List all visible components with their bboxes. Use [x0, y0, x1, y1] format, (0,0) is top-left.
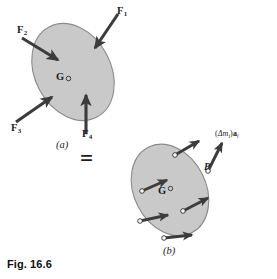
- body-b: [116, 131, 224, 249]
- figure-graphics: [0, 0, 277, 279]
- part-b-label: (b): [163, 246, 175, 257]
- figure-16-6: F1 F2 F3 F4 G (a) = (Δmi)ai P G (b) Fig.…: [0, 0, 277, 279]
- force-label-F1: F1: [117, 6, 128, 18]
- body-a: [16, 9, 131, 135]
- force-arrow-F3: [16, 97, 52, 122]
- point-p-label: P: [204, 162, 210, 172]
- force-label-F4: F4: [82, 129, 93, 141]
- force-label-F2: F2: [17, 25, 28, 37]
- body-a-ellipse: [16, 9, 131, 135]
- part-a-label: (a): [56, 140, 68, 151]
- force-label-F3: F3: [11, 123, 22, 135]
- center-of-mass-label-a: G: [56, 72, 64, 83]
- body-b-ellipse: [116, 131, 224, 249]
- force-arrow-F1: [95, 14, 118, 48]
- figure-caption: Fig. 16.6: [7, 258, 52, 270]
- center-of-mass-label-b: G: [158, 186, 166, 197]
- acceleration-vector-label: (Δmi)ai: [215, 130, 239, 139]
- particle-vector-6: [162, 235, 192, 240]
- equals-sign: =: [80, 147, 93, 170]
